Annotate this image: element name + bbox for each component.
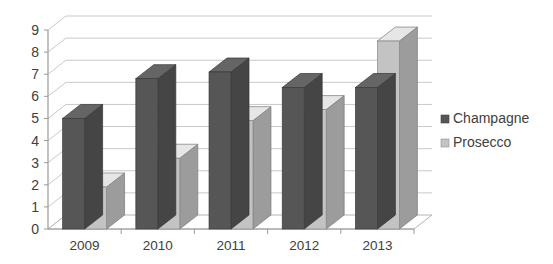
x-axis-category-label: 2013 — [362, 238, 392, 253]
legend-item-label: Prosecco — [453, 134, 512, 150]
bar-side-face — [377, 73, 395, 229]
bar-side-face — [85, 104, 103, 229]
y-axis-tick-label: 3 — [31, 155, 39, 171]
bar-side-face — [158, 65, 176, 229]
bar-front-face — [63, 118, 85, 229]
legend-swatch-icon — [441, 139, 449, 147]
bar-side-face — [304, 73, 322, 229]
bar-champagne-2011 — [209, 58, 249, 229]
x-axis-category-label: 2010 — [143, 238, 173, 253]
bar-front-face — [136, 79, 158, 229]
x-axis-category-label: 2009 — [70, 238, 100, 253]
gridline-depth-connector — [48, 82, 66, 96]
chart-container: 0123456789 20092010201120122013 Champagn… — [0, 0, 553, 264]
y-axis-tick-label: 1 — [31, 199, 39, 215]
legend-item-label: Champagne — [453, 110, 529, 126]
y-axis-tick-label: 5 — [31, 110, 39, 126]
bar-front-face — [355, 87, 377, 229]
legend-item-champagne[interactable]: Champagne — [441, 110, 529, 126]
x-axis-labels: 20092010201120122013 — [70, 229, 414, 253]
y-axis-tick-label: 8 — [31, 44, 39, 60]
bar-champagne-2009 — [63, 104, 103, 229]
y-axis-tick-label: 9 — [31, 22, 39, 38]
y-axis-tick-label: 2 — [31, 177, 39, 193]
gridline-depth-connector — [48, 60, 66, 74]
bar-front-face — [282, 87, 304, 229]
bar-chart: 0123456789 20092010201120122013 Champagn… — [0, 0, 553, 264]
bar-champagne-2012 — [282, 73, 322, 229]
bar-champagne-2010 — [136, 65, 176, 229]
x-axis-category-label: 2012 — [289, 238, 319, 253]
chart-legend: ChampagneProsecco — [441, 110, 529, 150]
gridline-depth-connector — [48, 16, 66, 30]
legend-item-prosecco[interactable]: Prosecco — [441, 134, 512, 150]
legend-swatch-icon — [441, 115, 449, 123]
y-axis-tick-label: 4 — [31, 133, 39, 149]
y-axis-tick-label: 6 — [31, 88, 39, 104]
bars-group — [63, 27, 418, 229]
y-axis-tick-label: 0 — [31, 221, 39, 237]
bar-side-face — [253, 107, 271, 229]
bar-front-face — [209, 72, 231, 229]
bar-side-face — [399, 27, 417, 229]
gridline-depth-connector — [48, 104, 66, 118]
bar-champagne-2013 — [355, 73, 395, 229]
y-axis-tick-label: 7 — [31, 66, 39, 82]
bar-side-face — [231, 58, 249, 229]
gridline-depth-connector — [48, 38, 66, 52]
bar-side-face — [180, 144, 198, 229]
y-axis-labels: 0123456789 — [31, 22, 48, 237]
bar-side-face — [326, 96, 344, 229]
x-axis-category-label: 2011 — [216, 238, 245, 253]
